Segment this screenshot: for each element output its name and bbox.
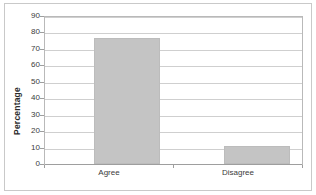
x-tick-label-agree: Agree (66, 168, 152, 177)
x-axis-category-labels: Agree Disagree (44, 168, 303, 182)
y-axis-tick-labels: 90 80 70 60 50 40 30 20 10 0 (14, 16, 40, 165)
y-tick-label: 80 (18, 28, 40, 36)
y-tick-label: 10 (18, 144, 40, 152)
y-tick-label: 40 (18, 94, 40, 102)
gridline (45, 99, 302, 100)
y-tick-label: 30 (18, 111, 40, 119)
gridline (45, 50, 302, 51)
y-tick-label: 60 (18, 61, 40, 69)
bar-chart-figure: Percentage 90 80 70 60 50 40 30 20 10 0 (0, 0, 316, 195)
y-tick-label: 90 (18, 12, 40, 20)
gridline (45, 83, 302, 84)
y-tick-label: 0 (18, 160, 40, 168)
x-tick-label-disagree: Disagree (195, 168, 281, 177)
bar-agree[interactable] (94, 38, 160, 164)
y-tick-label: 70 (18, 45, 40, 53)
plot-area (44, 16, 303, 165)
gridline (45, 132, 302, 133)
gridline (45, 17, 302, 18)
bar-disagree[interactable] (224, 146, 290, 164)
gridline (45, 66, 302, 67)
gridline (45, 33, 302, 34)
y-tick-label: 50 (18, 78, 40, 86)
y-tick-label: 20 (18, 127, 40, 135)
gridline (45, 116, 302, 117)
